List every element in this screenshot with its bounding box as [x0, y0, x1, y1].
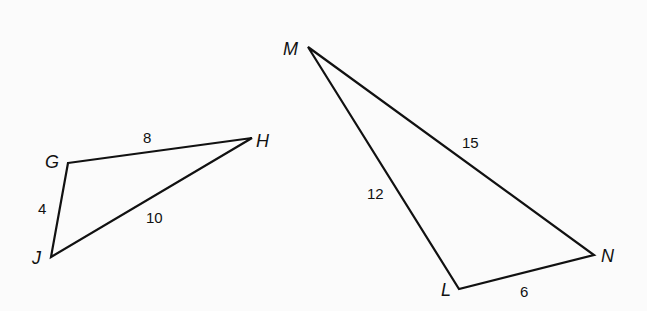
triangle-lmn: M N L 12 15 6 [283, 39, 615, 300]
triangle-ghj: G H J 8 4 10 [31, 129, 270, 268]
vertex-label-h: H [256, 131, 270, 151]
vertex-label-m: M [283, 39, 298, 59]
side-label-ml: 12 [367, 185, 384, 202]
side-label-mn: 15 [462, 134, 479, 151]
triangle-lmn-shape [308, 47, 594, 289]
triangle-ghj-shape [51, 138, 252, 257]
side-label-hj: 10 [146, 209, 163, 226]
vertex-label-g: G [45, 152, 59, 172]
side-label-ln: 6 [520, 283, 528, 300]
side-label-gj: 4 [38, 200, 46, 217]
side-label-gh: 8 [143, 129, 151, 146]
vertex-label-l: L [441, 280, 451, 300]
vertex-label-n: N [601, 246, 615, 266]
vertex-label-j: J [31, 248, 42, 268]
diagram-canvas: G H J 8 4 10 M N L 12 15 6 [0, 0, 647, 311]
